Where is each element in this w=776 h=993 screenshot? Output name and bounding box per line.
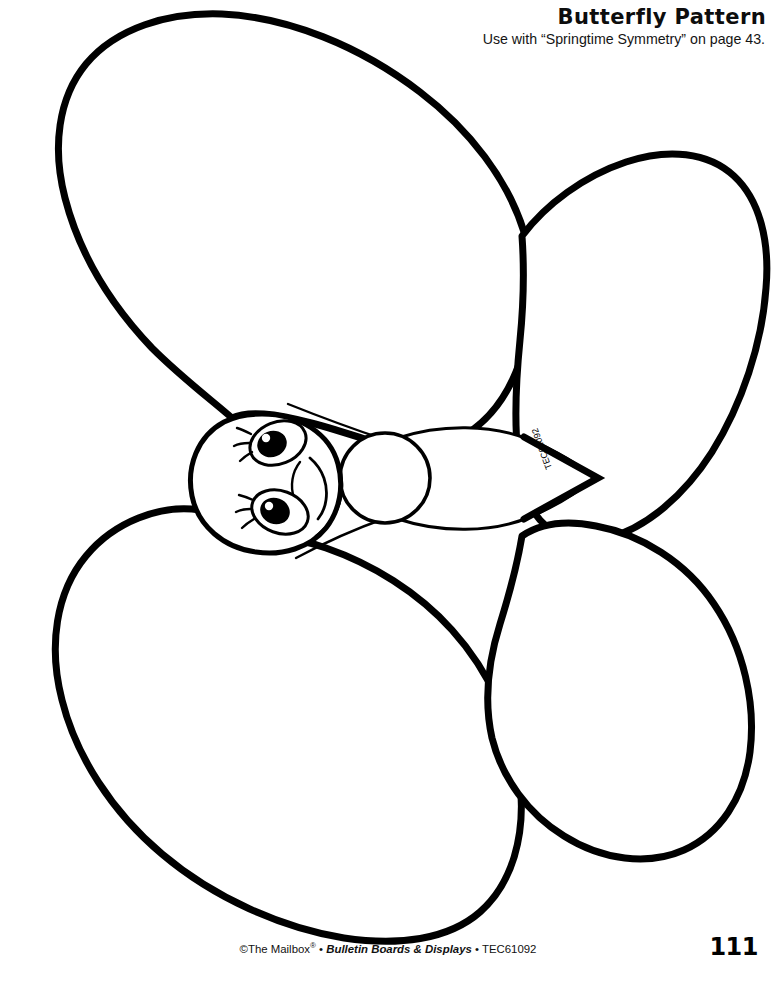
lower-right-wing (488, 523, 752, 859)
footer-copyright: ©The Mailbox (240, 943, 310, 955)
footer-product-code: TEC61092 (482, 943, 536, 955)
page-footer: ©The Mailbox® • Bulletin Boards & Displa… (0, 937, 776, 963)
eye-lower-highlight (265, 502, 273, 510)
eye-upper-highlight (262, 434, 270, 442)
upper-left-wing (58, 14, 532, 448)
footer-separator-2: • (472, 943, 482, 955)
butterfly-pattern-illustration: TEC61092 (0, 0, 776, 993)
page-canvas: Butterfly Pattern Use with “Springtime S… (0, 0, 776, 993)
thorax (340, 433, 430, 523)
footer-separator-1: • (316, 943, 326, 955)
page-number: 111 (709, 933, 758, 961)
lower-left-wing (55, 509, 521, 941)
footer-series: Bulletin Boards & Displays (326, 943, 472, 955)
footer-credit: ©The Mailbox® • Bulletin Boards & Displa… (0, 941, 776, 955)
